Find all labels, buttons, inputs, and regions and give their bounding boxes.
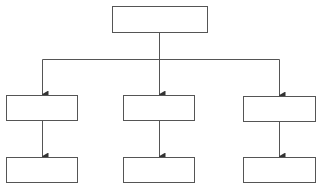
- org-chart-diagram: [0, 0, 320, 191]
- node-bottom-left: [7, 158, 78, 183]
- node-mid-right: [244, 97, 316, 122]
- node-bottom-center: [124, 158, 195, 183]
- connectors: [43, 33, 280, 157]
- node-mid-center: [124, 96, 195, 121]
- node-bottom-right: [244, 158, 316, 183]
- node-root: [113, 7, 208, 33]
- node-mid-left: [7, 96, 78, 121]
